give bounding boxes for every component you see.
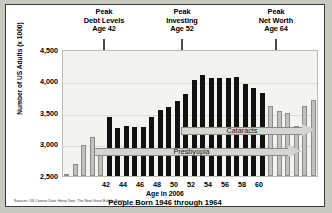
sources-note: Sources: US Census Data; Harry Dent, The… — [14, 199, 124, 203]
banner-presbyopia-label: Presbyopia — [94, 147, 289, 156]
banner-presbyopia: Presbyopia — [94, 145, 302, 158]
x-tick-52: 52 — [183, 180, 199, 189]
x-tick-42: 42 — [98, 180, 114, 189]
bar-age-49 — [166, 107, 171, 176]
x-tick-44: 44 — [115, 180, 131, 189]
annotation-peak-networth-line3: Age 64 — [238, 25, 314, 34]
banner-presbyopia-tip — [288, 145, 301, 157]
y-tick-4500: 4,500 — [6, 46, 58, 55]
x-tick-46: 46 — [132, 180, 148, 189]
y-tick-3500: 3,500 — [6, 109, 58, 118]
annotation-peak-debt-line3: Age 42 — [68, 25, 140, 34]
x-tick-50: 50 — [166, 180, 182, 189]
chart-frame: Number of US Adults (x 1000) Peak Debt L… — [5, 4, 325, 207]
bar-age-61 — [268, 106, 273, 176]
x-tick-48: 48 — [149, 180, 165, 189]
banner-cataracts-tip — [302, 124, 315, 136]
x-tick-60: 60 — [251, 180, 267, 189]
annotation-peak-investing: Peak Investing Age 52 — [146, 8, 218, 34]
x-tick-56: 56 — [217, 180, 233, 189]
bar-age-48 — [158, 110, 163, 176]
bar-age-50 — [175, 101, 180, 176]
bar-age-38 — [73, 164, 78, 177]
y-tick-4000: 4,000 — [6, 77, 58, 86]
annotation-peak-networth: Peak Net Worth Age 64 — [238, 8, 314, 34]
banner-cataracts: Cataracts — [181, 124, 316, 137]
y-tick-3000: 3,000 — [6, 140, 58, 149]
y-tick-2500: 2,500 — [6, 172, 58, 181]
bar-age-62 — [277, 111, 282, 176]
bar-age-39 — [81, 145, 86, 176]
bar-age-65 — [302, 106, 307, 176]
bar-age-66 — [311, 100, 316, 176]
x-tick-54: 54 — [200, 180, 216, 189]
annotation-peak-investing-line3: Age 52 — [146, 25, 218, 34]
x-tick-58: 58 — [234, 180, 250, 189]
bar-age-37 — [64, 174, 69, 176]
x-axis-title: Age in 2006 — [6, 190, 324, 197]
annotation-peak-debt: Peak Debt Levels Age 42 — [68, 8, 140, 34]
banner-cataracts-label: Cataracts — [181, 126, 303, 135]
